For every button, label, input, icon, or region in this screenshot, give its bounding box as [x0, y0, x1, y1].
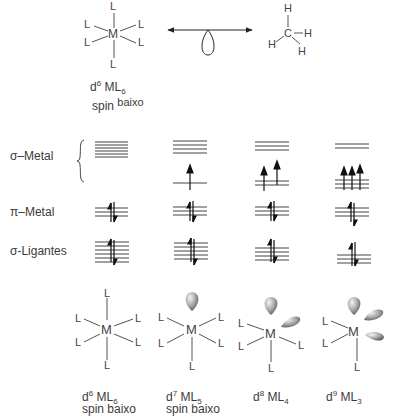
ml5-lobe-top: [186, 292, 199, 311]
svg-text:L: L: [238, 340, 244, 352]
caption-d7-spin: spin baixo: [166, 402, 220, 417]
ligand-count: 3: [357, 397, 361, 406]
ml4-lobe-top: [265, 297, 278, 315]
svg-text:L: L: [298, 339, 304, 351]
svg-text:L: L: [322, 337, 328, 349]
svg-text:L: L: [189, 360, 195, 372]
ml3-lobe-upper-right: [364, 309, 383, 320]
lone-pair-lobe: [202, 30, 214, 55]
d-label: d: [326, 390, 333, 404]
bottom-ml3-atoms: L M L L: [322, 315, 360, 373]
ml-label: ML: [337, 390, 357, 404]
svg-text:H: H: [284, 2, 292, 14]
svg-text:L: L: [104, 359, 110, 371]
svg-text:H: H: [304, 27, 312, 39]
caption-d6-spin: spin baixo: [82, 402, 136, 417]
svg-text:M: M: [186, 322, 197, 337]
svg-text:L: L: [84, 36, 90, 48]
svg-text:L: L: [158, 311, 164, 323]
svg-text:L: L: [75, 336, 81, 348]
baixo-word: baixo: [117, 96, 143, 108]
svg-text:L: L: [138, 36, 144, 48]
caption-d8-ml4: d8 ML4: [253, 386, 289, 409]
svg-text:M: M: [101, 322, 112, 337]
svg-text:L: L: [104, 287, 110, 299]
ml4-lobe-right: [281, 316, 300, 327]
svg-text:L: L: [238, 317, 244, 329]
svg-text:L: L: [110, 0, 116, 12]
svg-text:H: H: [298, 45, 306, 57]
top-ml6-labels: L L L M L L L: [84, 0, 144, 70]
svg-text:M: M: [265, 326, 276, 341]
svg-text:L: L: [218, 311, 224, 323]
svg-text:L: L: [84, 18, 90, 30]
ml-label: ML: [264, 390, 284, 404]
methyl-labels: H C H H H: [268, 2, 312, 57]
svg-text:L: L: [75, 312, 81, 324]
svg-text:M: M: [348, 324, 359, 339]
svg-text:L: L: [322, 315, 328, 327]
col1-sigma-metal-levels: [95, 142, 128, 157]
paired-electrons: [108, 201, 358, 266]
bottom-ml6-atoms: L LL M LL L: [75, 287, 141, 371]
pi-metal-levels: [95, 207, 369, 216]
ml3-lobe-top: [348, 297, 361, 315]
svg-text:L: L: [218, 337, 224, 349]
caption-d9-ml3: d9 ML3: [326, 386, 362, 409]
svg-text:L: L: [135, 336, 141, 348]
spin-word: spin: [92, 99, 114, 113]
caption-ml: ML: [101, 80, 121, 94]
svg-text:L: L: [354, 361, 360, 373]
caption-d: d: [90, 80, 97, 94]
svg-text:L: L: [268, 362, 274, 374]
svg-text:M: M: [108, 27, 118, 41]
svg-text:L: L: [138, 18, 144, 30]
row-label-pi-metal: π–Metal: [10, 205, 54, 219]
ligand-count: 4: [284, 397, 288, 406]
svg-text:C: C: [284, 27, 292, 39]
svg-text:L: L: [110, 58, 116, 70]
d-label: d: [253, 390, 260, 404]
row-label-sigma-metal: σ–Metal: [10, 149, 53, 163]
energy-levels: [95, 141, 371, 263]
sigma-ligand-levels: [95, 242, 371, 263]
svg-text:H: H: [268, 38, 276, 50]
orbital-diagram: L L L M L L L H C H H H: [0, 0, 403, 419]
ml3-lobe-lower-right: [365, 332, 384, 341]
svg-text:L: L: [158, 337, 164, 349]
svg-text:L: L: [135, 312, 141, 324]
top-complex-spin: spin baixo: [92, 95, 144, 114]
sigma-metal-brace: [77, 140, 84, 182]
row-label-sigma-ligands: σ-Ligantes: [10, 244, 67, 258]
unpaired-electrons: [187, 161, 363, 191]
col3-sigma-metal-levels: [255, 142, 289, 185]
